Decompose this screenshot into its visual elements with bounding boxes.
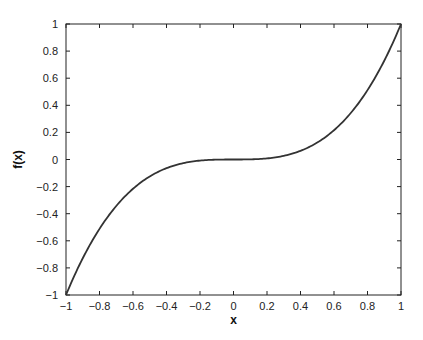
x-axis-label: x — [230, 313, 237, 327]
x-tick-label: −0.6 — [122, 300, 144, 312]
x-tick-label: 0.4 — [293, 300, 308, 312]
x-tick-label: 0.2 — [259, 300, 274, 312]
x-tick-label: 1 — [398, 300, 404, 312]
x-tick-label: −0.8 — [89, 300, 111, 312]
y-tick-label: 0.8 — [43, 45, 58, 57]
y-tick-label: 0.6 — [43, 72, 58, 84]
y-tick-label: −0.4 — [36, 208, 58, 220]
x-tick-label: 0 — [230, 300, 236, 312]
x-tick-label: 0.6 — [326, 300, 341, 312]
x-tick-label: 0.8 — [360, 300, 375, 312]
y-axis-label: f(x) — [11, 150, 25, 169]
chart: −1−0.8−0.6−0.4−0.200.20.40.60.81−1−0.8−0… — [0, 0, 423, 340]
x-tick-label: −0.4 — [156, 300, 178, 312]
y-tick-label: 0.2 — [43, 126, 58, 138]
data-line — [66, 24, 401, 295]
y-tick-label: −0.8 — [36, 262, 58, 274]
y-tick-label: 0 — [52, 154, 58, 166]
y-tick-label: 1 — [52, 18, 58, 30]
x-tick-label: −1 — [60, 300, 73, 312]
y-tick-label: −1 — [45, 289, 58, 301]
y-tick-label: 0.4 — [43, 99, 58, 111]
y-tick-label: −0.2 — [36, 181, 58, 193]
y-tick-label: −0.6 — [36, 235, 58, 247]
plot-area: −1−0.8−0.6−0.4−0.200.20.40.60.81−1−0.8−0… — [11, 18, 404, 327]
x-tick-label: −0.2 — [189, 300, 211, 312]
